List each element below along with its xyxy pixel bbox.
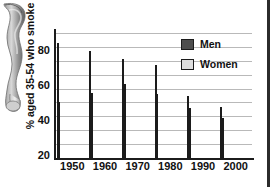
bar-women-1950 bbox=[58, 102, 60, 158]
y-tick-label-60: 60 bbox=[38, 79, 50, 91]
y-tick-label-40: 40 bbox=[38, 114, 50, 126]
bar-group-1970 bbox=[121, 33, 154, 158]
legend-label-women: Women bbox=[200, 58, 238, 70]
bar-women-1990 bbox=[189, 108, 191, 158]
x-tick-label-1990: 1990 bbox=[191, 160, 215, 172]
bar-men-1980 bbox=[155, 65, 157, 158]
x-tick-label-1980: 1980 bbox=[158, 160, 182, 172]
y-axis-tick-labels: 20 40 60 80 bbox=[0, 33, 54, 158]
y-tick-label-80: 80 bbox=[38, 44, 50, 56]
bar-group-1960 bbox=[89, 33, 122, 158]
chart-figure: % aged 35-54 who smoke 20 40 60 80 19501… bbox=[0, 0, 270, 187]
bar-group-1950 bbox=[56, 33, 89, 158]
x-tick-label-1960: 1960 bbox=[93, 160, 117, 172]
x-axis-tick-labels: 195019601970198019902000 bbox=[56, 160, 252, 180]
legend-swatch-women-icon bbox=[181, 59, 194, 70]
bar-women-1960 bbox=[91, 93, 93, 158]
x-tick-label-2000: 2000 bbox=[223, 160, 247, 172]
bar-men-1950 bbox=[57, 43, 59, 158]
legend-item-women: Women bbox=[181, 56, 259, 72]
legend-label-men: Men bbox=[200, 38, 221, 50]
frame-right-edge bbox=[267, 0, 270, 187]
bar-men-1970 bbox=[122, 59, 124, 158]
x-tick-label-1950: 1950 bbox=[60, 160, 84, 172]
chart-legend: Men Women bbox=[181, 36, 259, 76]
bar-women-1970 bbox=[124, 84, 126, 158]
legend-swatch-men-icon bbox=[181, 39, 194, 50]
y-tick-label-20: 20 bbox=[38, 149, 50, 161]
bar-men-1990 bbox=[187, 96, 189, 159]
x-tick-label-1970: 1970 bbox=[125, 160, 149, 172]
bar-women-1980 bbox=[156, 94, 158, 158]
bar-men-2000 bbox=[220, 107, 222, 158]
legend-item-men: Men bbox=[181, 36, 259, 52]
bar-men-1960 bbox=[89, 51, 91, 158]
bar-women-2000 bbox=[222, 118, 224, 158]
